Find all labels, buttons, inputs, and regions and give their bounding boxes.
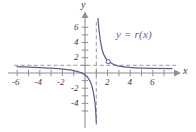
x-tick-label-neg4: -4	[35, 78, 43, 87]
y-tick-label-6: 6	[74, 23, 79, 32]
curve-label: y = r(x)	[116, 28, 152, 40]
y-axis-label: y	[81, 0, 85, 10]
plot-canvas	[0, 0, 196, 132]
y-tick-label-2: 2	[74, 53, 79, 62]
x-axis-arrowhead	[174, 70, 181, 77]
x-tick-label-2: 2	[105, 78, 110, 87]
x-axis-label: x	[183, 66, 187, 76]
y-tick-label-4: 4	[74, 38, 79, 47]
x-tick-label-6: 6	[150, 78, 155, 87]
hole-open-circle	[106, 60, 110, 64]
y-tick-label-neg2: -2	[71, 84, 79, 93]
x-tick-label-neg2: -2	[57, 78, 65, 87]
x-tick-label-4: 4	[128, 78, 133, 87]
y-tick-label-neg4: -4	[71, 99, 79, 108]
y-axis-arrowhead	[82, 12, 89, 19]
x-tick-label-neg6: -6	[12, 78, 20, 87]
graph-figure: -6 -4 -2 2 4 6 6 4 2 -2 -4 x y y = r(x)	[0, 0, 196, 132]
